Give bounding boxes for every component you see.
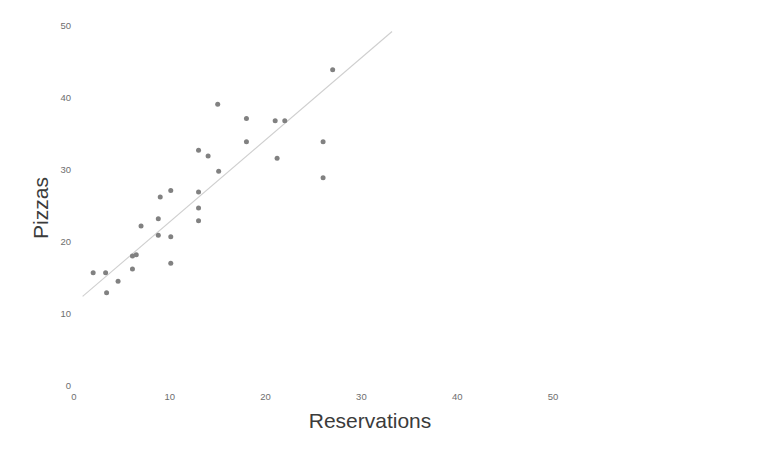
x-tick-label: 40 <box>452 391 463 402</box>
data-point <box>321 175 326 180</box>
data-point <box>196 205 201 210</box>
data-point <box>216 169 221 174</box>
x-tick-label: 10 <box>165 391 176 402</box>
data-point <box>91 270 96 275</box>
data-point <box>196 148 201 153</box>
data-point <box>275 156 280 161</box>
chart-canvas: 01020304050 01020304050 Reservations Piz… <box>0 0 765 459</box>
data-point <box>321 139 326 144</box>
data-point <box>168 234 173 239</box>
data-point <box>156 216 161 221</box>
data-point <box>244 116 249 121</box>
data-point <box>139 223 144 228</box>
y-tick-label: 50 <box>60 20 71 31</box>
data-point <box>282 118 287 123</box>
y-tick-label: 40 <box>60 92 71 103</box>
x-tick-label: 0 <box>71 391 76 402</box>
y-tick-label: 0 <box>66 380 71 391</box>
y-tick-label: 10 <box>60 308 71 319</box>
data-point <box>196 190 201 195</box>
data-point <box>196 218 201 223</box>
x-tick-label: 20 <box>260 391 271 402</box>
y-tick-label: 20 <box>60 236 71 247</box>
y-axis-title: Pizzas <box>29 177 52 239</box>
data-point <box>244 139 249 144</box>
data-point <box>206 154 211 159</box>
x-tick-label: 50 <box>548 391 559 402</box>
data-point <box>158 195 163 200</box>
data-point <box>215 102 220 107</box>
data-point <box>134 252 139 257</box>
y-tick-label: 30 <box>60 164 71 175</box>
data-point <box>273 118 278 123</box>
data-point <box>104 290 109 295</box>
x-axis-title: Reservations <box>309 409 432 432</box>
data-point <box>116 279 121 284</box>
data-point <box>103 270 108 275</box>
data-point <box>168 261 173 266</box>
x-tick-label: 30 <box>356 391 367 402</box>
data-point <box>156 233 161 238</box>
scatter-plot-figure: 01020304050 01020304050 Reservations Piz… <box>0 0 765 459</box>
data-point <box>130 267 135 272</box>
plot-background <box>0 0 765 459</box>
data-point <box>168 188 173 193</box>
data-point <box>330 67 335 72</box>
